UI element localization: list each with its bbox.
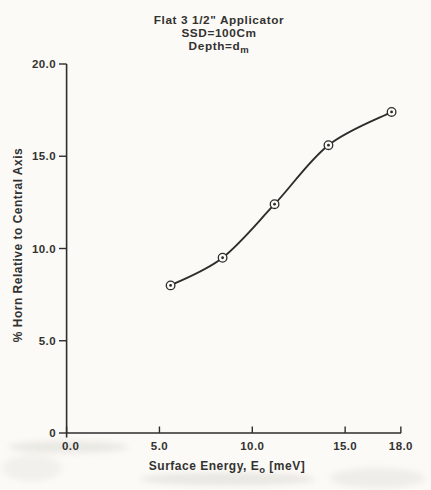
data-point-marker	[324, 141, 333, 150]
figure-page: Flat 3 1/2" Applicator SSD=100Cm Depth=d…	[0, 0, 431, 490]
data-point-marker	[270, 200, 279, 209]
y-tick-label: 15.0	[32, 150, 56, 162]
data-series	[166, 108, 396, 290]
chart: Flat 3 1/2" Applicator SSD=100Cm Depth=d…	[0, 0, 431, 490]
x-tick-label: 5.0	[151, 440, 168, 452]
title3-subscript: m	[240, 44, 249, 55]
x-tick-label: 0.0	[62, 440, 79, 452]
marker-center-dot	[327, 144, 330, 147]
x-tick-label: 15.0	[333, 440, 357, 452]
chart-title-line-1: Flat 3 1/2" Applicator	[154, 13, 284, 27]
chart-title-line-2: SSD=100Cm	[181, 26, 256, 40]
marker-center-dot	[221, 256, 224, 259]
x-tick-label: 10.0	[240, 440, 264, 452]
marker-center-dot	[273, 203, 276, 206]
y-axis-label: % Horn Relative to Central Axis	[11, 148, 25, 342]
chart-title-line-3: Depth=dm	[189, 39, 250, 55]
x-tick-label: 18.0	[389, 440, 413, 452]
xlabel-unit: [meV]	[265, 459, 305, 473]
y-tick-label: 0	[49, 427, 56, 439]
data-curve	[171, 112, 392, 285]
x-axis-ticks: 0.05.010.015.018.0	[62, 427, 413, 453]
data-point-marker	[387, 108, 396, 117]
data-point-marker	[218, 253, 227, 262]
y-tick-label: 10.0	[32, 243, 56, 255]
marker-center-dot	[169, 284, 172, 287]
marker-center-dot	[390, 111, 393, 114]
y-tick-label: 5.0	[39, 335, 56, 347]
x-axis-label: Surface Energy, Eo [meV]	[149, 459, 305, 475]
xlabel-main: Surface Energy, E	[149, 459, 259, 473]
title3-main: Depth=d	[189, 39, 241, 53]
y-tick-label: 20.0	[32, 58, 56, 70]
data-point-marker	[166, 281, 175, 290]
y-axis-ticks: 05.010.015.020.0	[32, 58, 67, 439]
